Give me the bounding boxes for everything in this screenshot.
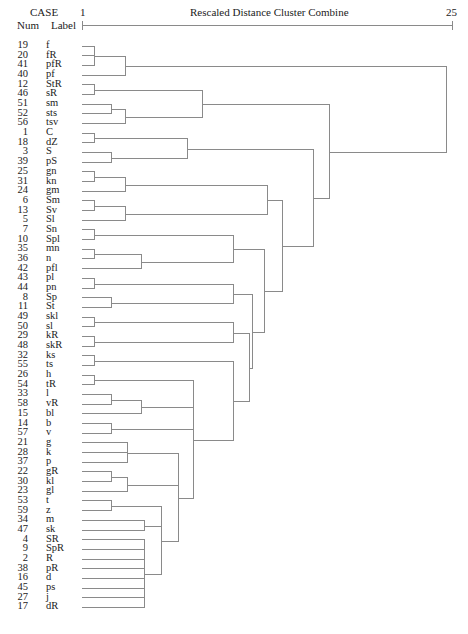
dendrogram-plot <box>0 0 468 634</box>
